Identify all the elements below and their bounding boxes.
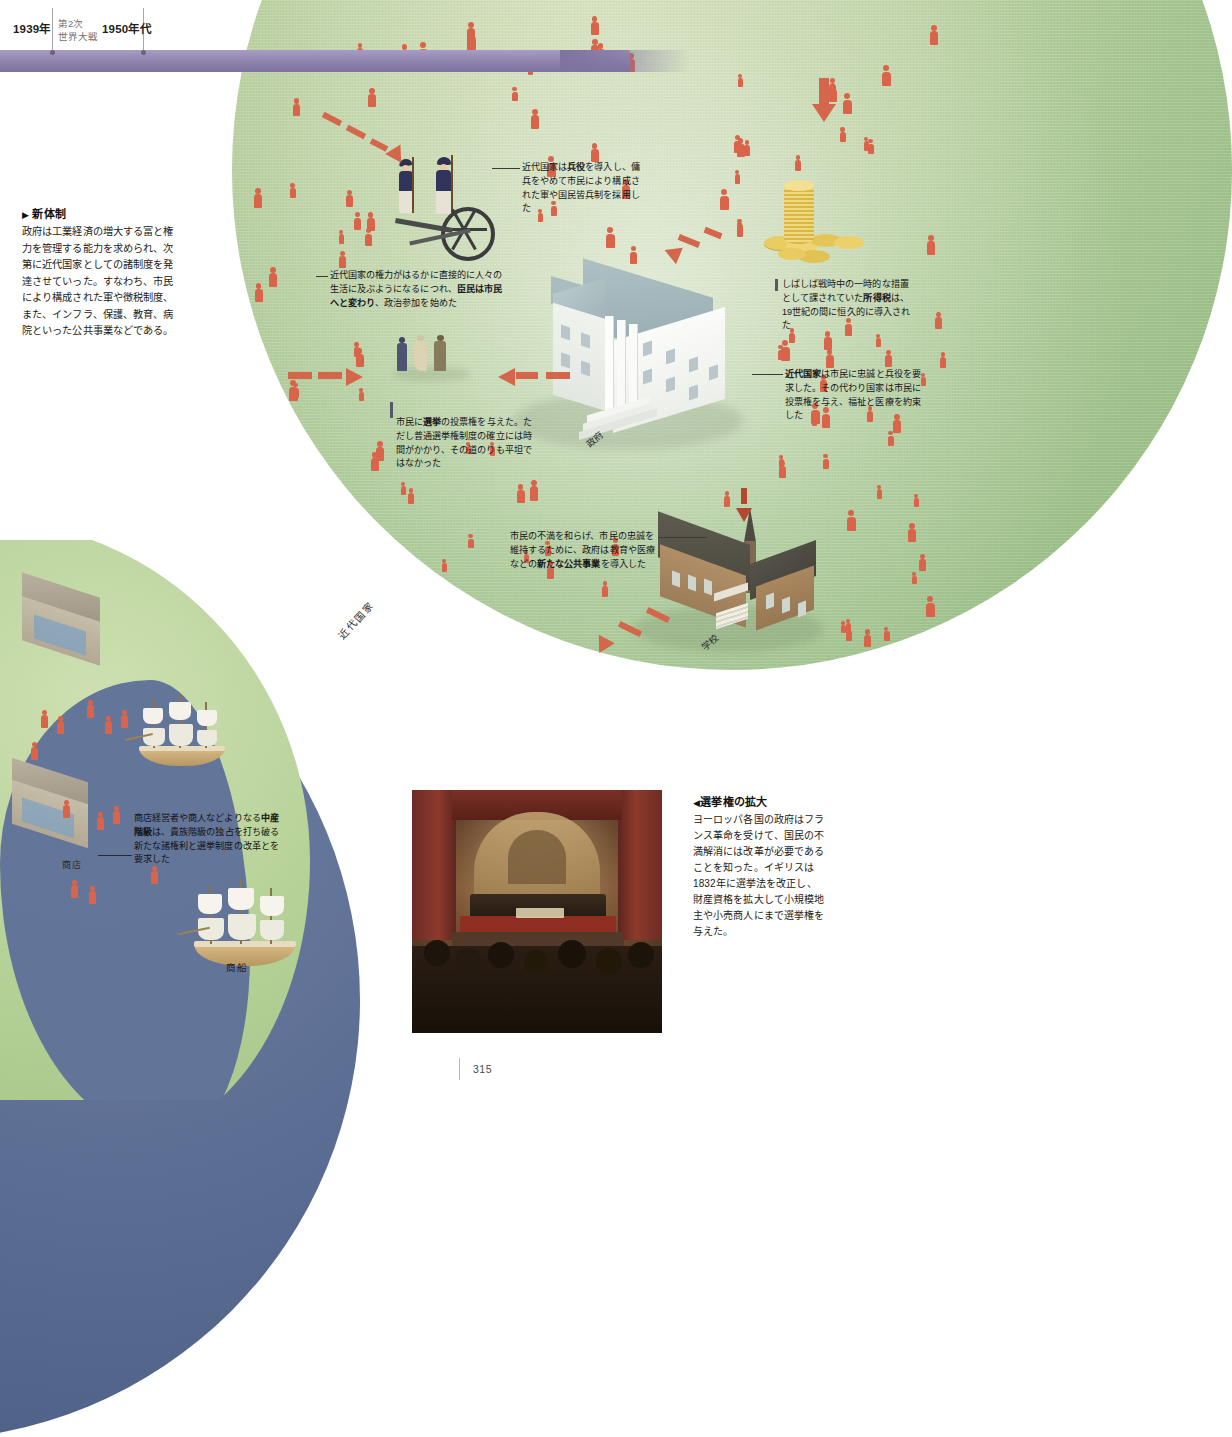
engraving-inner bbox=[412, 790, 662, 1033]
citizen-body bbox=[31, 747, 38, 760]
table-papers bbox=[516, 908, 564, 918]
figure-caption: ◀選挙権の拡大 ヨーロッパ各国の政府はフランス革命を受けて、国民の不満解消には改… bbox=[693, 793, 826, 940]
citizen-body bbox=[89, 891, 96, 904]
citizen-body bbox=[63, 805, 70, 818]
citizen-body bbox=[105, 721, 112, 734]
citizen-figure bbox=[104, 716, 113, 734]
citizen-body bbox=[57, 721, 64, 734]
label-merchant-ship: 商船 bbox=[226, 960, 247, 974]
citizen-figure bbox=[88, 886, 97, 904]
citizen-figure bbox=[56, 716, 65, 734]
arrow-head bbox=[591, 635, 614, 658]
arrow-dash bbox=[678, 234, 701, 248]
port-citizens bbox=[0, 0, 400, 960]
citizen-body bbox=[87, 705, 94, 718]
figure-caption-heading-text: 選挙権の拡大 bbox=[700, 796, 767, 808]
citizen-figure bbox=[120, 710, 129, 728]
arrow-dash bbox=[646, 607, 670, 623]
arrow-head bbox=[498, 368, 515, 386]
arrow-dash bbox=[618, 621, 642, 637]
historical-engraving bbox=[412, 790, 662, 1033]
arrow-dash bbox=[516, 372, 538, 379]
citizen-body bbox=[121, 715, 128, 728]
crowd-figure bbox=[524, 950, 548, 974]
crowd-figure bbox=[596, 948, 622, 974]
citizen-body bbox=[97, 817, 104, 830]
arrow-head bbox=[812, 104, 836, 122]
citizen-body bbox=[71, 885, 78, 898]
citizen-figure bbox=[40, 710, 49, 728]
crowd-figure bbox=[456, 948, 480, 972]
figure-caption-heading: ◀選挙権の拡大 bbox=[693, 793, 826, 809]
curtain-right bbox=[618, 790, 662, 940]
crowd-figure bbox=[628, 942, 654, 968]
citizen-figure bbox=[70, 880, 79, 898]
crowd-figure bbox=[488, 942, 514, 968]
arrow-head bbox=[661, 242, 683, 265]
hall-niche bbox=[508, 830, 566, 884]
citizen-figure bbox=[86, 700, 95, 718]
arrow-dash bbox=[546, 372, 570, 379]
arrow-tax-to-government bbox=[630, 230, 720, 280]
arrow-shaft bbox=[819, 78, 829, 106]
arrow-government-to-citizens bbox=[480, 368, 590, 390]
figure-caption-body: ヨーロッパ各国の政府はフランス革命を受けて、国民の不満解消には改革が必要であるこ… bbox=[693, 812, 826, 940]
citizen-figure bbox=[62, 800, 71, 818]
citizen-body bbox=[41, 715, 48, 728]
curtain-left bbox=[412, 790, 456, 940]
citizen-body bbox=[113, 811, 120, 824]
citizen-figure bbox=[30, 742, 39, 760]
arrow-head bbox=[736, 508, 752, 522]
citizen-body bbox=[151, 871, 158, 884]
arrow-government-to-school bbox=[734, 488, 754, 534]
citizen-figure bbox=[150, 866, 159, 884]
arrow-down-coins bbox=[812, 78, 836, 124]
citizen-figure bbox=[96, 812, 105, 830]
page-number: 315 bbox=[473, 1063, 492, 1075]
arrow-dash bbox=[704, 227, 723, 239]
crowd-figure bbox=[424, 940, 450, 966]
crowd-figure bbox=[558, 940, 586, 968]
citizen-figure bbox=[112, 806, 121, 824]
arrow-school-outward bbox=[588, 612, 674, 668]
page-number-rule bbox=[459, 1058, 460, 1080]
arrow-dash bbox=[741, 488, 747, 504]
